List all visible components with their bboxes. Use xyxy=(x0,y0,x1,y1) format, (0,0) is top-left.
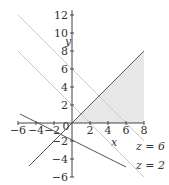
y-axis-label: y xyxy=(64,35,72,48)
x-axis-label: x xyxy=(111,136,118,149)
x-tick-label: 6 xyxy=(123,124,130,137)
origin-label: 0 xyxy=(63,120,70,133)
y-tick-label: −6 xyxy=(52,171,68,184)
y-tick-label: 2 xyxy=(61,99,68,112)
x-tick-label: 2 xyxy=(87,124,94,137)
x-tick-label: 8 xyxy=(141,124,148,137)
plot-canvas: −6 −4 −2 0 2 4 6 8 12 10 8 6 4 2 −2 −4 −… xyxy=(0,0,169,185)
x-tick-label: −6 xyxy=(10,124,26,137)
z6-label: z = 6 xyxy=(135,140,165,153)
y-tick-label: −4 xyxy=(52,153,68,166)
y-tick-label: 4 xyxy=(61,81,68,94)
z2-label: z = 2 xyxy=(135,159,165,172)
x-tick-label: −4 xyxy=(28,124,44,137)
y-tick-label: 12 xyxy=(54,9,68,22)
lp-diagram: −6 −4 −2 0 2 4 6 8 12 10 8 6 4 2 −2 −4 −… xyxy=(0,0,169,185)
y-tick-label: −2 xyxy=(52,135,68,148)
y-tick-label: 6 xyxy=(61,63,68,76)
